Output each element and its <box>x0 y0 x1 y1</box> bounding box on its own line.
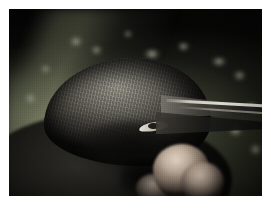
background-highlight <box>249 144 262 155</box>
background-highlight <box>141 50 164 57</box>
photograph <box>9 9 262 196</box>
screenshot-root <box>0 0 271 216</box>
background-highlight <box>67 37 85 46</box>
background-highlight <box>176 43 191 50</box>
background-highlight <box>39 65 52 72</box>
background-highlight <box>209 58 229 65</box>
background-highlight <box>232 71 247 80</box>
background-highlight <box>90 46 103 53</box>
background-highlight <box>22 93 40 104</box>
background-highlight <box>123 31 133 37</box>
caption <box>9 198 262 214</box>
second-finger <box>181 162 224 196</box>
